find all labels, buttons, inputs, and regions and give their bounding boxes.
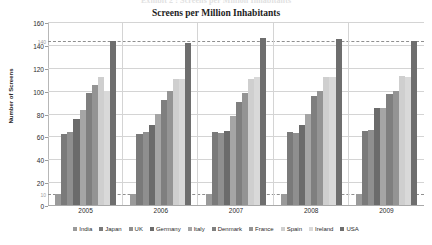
- legend-label: USA: [346, 226, 358, 232]
- x-axis-labels: 20052006200720082009: [48, 207, 424, 214]
- legend-label: Japan: [105, 226, 121, 232]
- legend-swatch-icon: [212, 227, 216, 231]
- y-tick-label: 60: [37, 134, 44, 141]
- legend-swatch-icon: [150, 227, 154, 231]
- legend-swatch-icon: [281, 227, 285, 231]
- legend-label: UK: [135, 226, 143, 232]
- legend-label: France: [255, 226, 274, 232]
- x-axis-label: 2008: [274, 207, 349, 214]
- legend-swatch-icon: [73, 227, 77, 231]
- legend-item[interactable]: UK: [129, 226, 143, 232]
- figure-caption: Exhibit 2 : Screens per Million Inhabita…: [0, 0, 432, 5]
- bar-groups: [48, 22, 424, 205]
- bar-group: [274, 22, 349, 205]
- y-axis-title: Number of Screens: [8, 61, 14, 131]
- x-axis-label: 2007: [198, 207, 273, 214]
- legend-label: Denmark: [218, 226, 242, 232]
- legend-swatch-icon: [249, 227, 253, 231]
- bar: [336, 39, 342, 205]
- reference-line-label: 10: [40, 192, 46, 198]
- x-axis-label: 2009: [349, 207, 424, 214]
- bar-group: [48, 22, 123, 205]
- legend-item[interactable]: Japan: [99, 226, 121, 232]
- reference-line-label: 140: [38, 39, 46, 45]
- legend-item[interactable]: Denmark: [212, 226, 242, 232]
- y-tick-label: 0: [40, 203, 44, 210]
- legend-swatch-icon: [99, 227, 103, 231]
- chart-legend: IndiaJapanUKGermanyItalyDenmarkFranceSpa…: [0, 226, 432, 232]
- x-axis-label: 2005: [48, 207, 123, 214]
- bar-group: [349, 22, 424, 205]
- chart-title: Screens per Million Inhabitants: [0, 8, 432, 18]
- y-tick-label: 120: [33, 65, 44, 72]
- legend-label: Spain: [287, 226, 302, 232]
- legend-item[interactable]: Italy: [188, 226, 205, 232]
- bar: [411, 41, 417, 205]
- bar: [185, 43, 191, 205]
- bar: [110, 41, 116, 205]
- legend-item[interactable]: USA: [340, 226, 358, 232]
- legend-swatch-icon: [309, 227, 313, 231]
- legend-label: Italy: [194, 226, 205, 232]
- legend-swatch-icon: [340, 227, 344, 231]
- legend-item[interactable]: India: [73, 226, 92, 232]
- legend-label: Ireland: [315, 226, 333, 232]
- gridline: 0: [48, 205, 424, 206]
- bar: [260, 38, 266, 205]
- plot-area: 020406080100120140160 14010: [48, 22, 424, 205]
- legend-swatch-icon: [188, 227, 192, 231]
- legend-item[interactable]: Germany: [150, 226, 181, 232]
- bar-group: [198, 22, 273, 205]
- legend-swatch-icon: [129, 227, 133, 231]
- y-tick-label: 100: [33, 88, 44, 95]
- y-tick-label: 40: [37, 157, 44, 164]
- x-axis-label: 2006: [123, 207, 198, 214]
- legend-label: Germany: [156, 226, 181, 232]
- bar-group: [123, 22, 198, 205]
- legend-label: India: [79, 226, 92, 232]
- legend-item[interactable]: Ireland: [309, 226, 333, 232]
- legend-item[interactable]: Spain: [281, 226, 302, 232]
- y-tick-label: 80: [37, 111, 44, 118]
- y-tick-label: 20: [37, 180, 44, 187]
- legend-item[interactable]: France: [249, 226, 274, 232]
- y-tick-label: 160: [33, 20, 44, 27]
